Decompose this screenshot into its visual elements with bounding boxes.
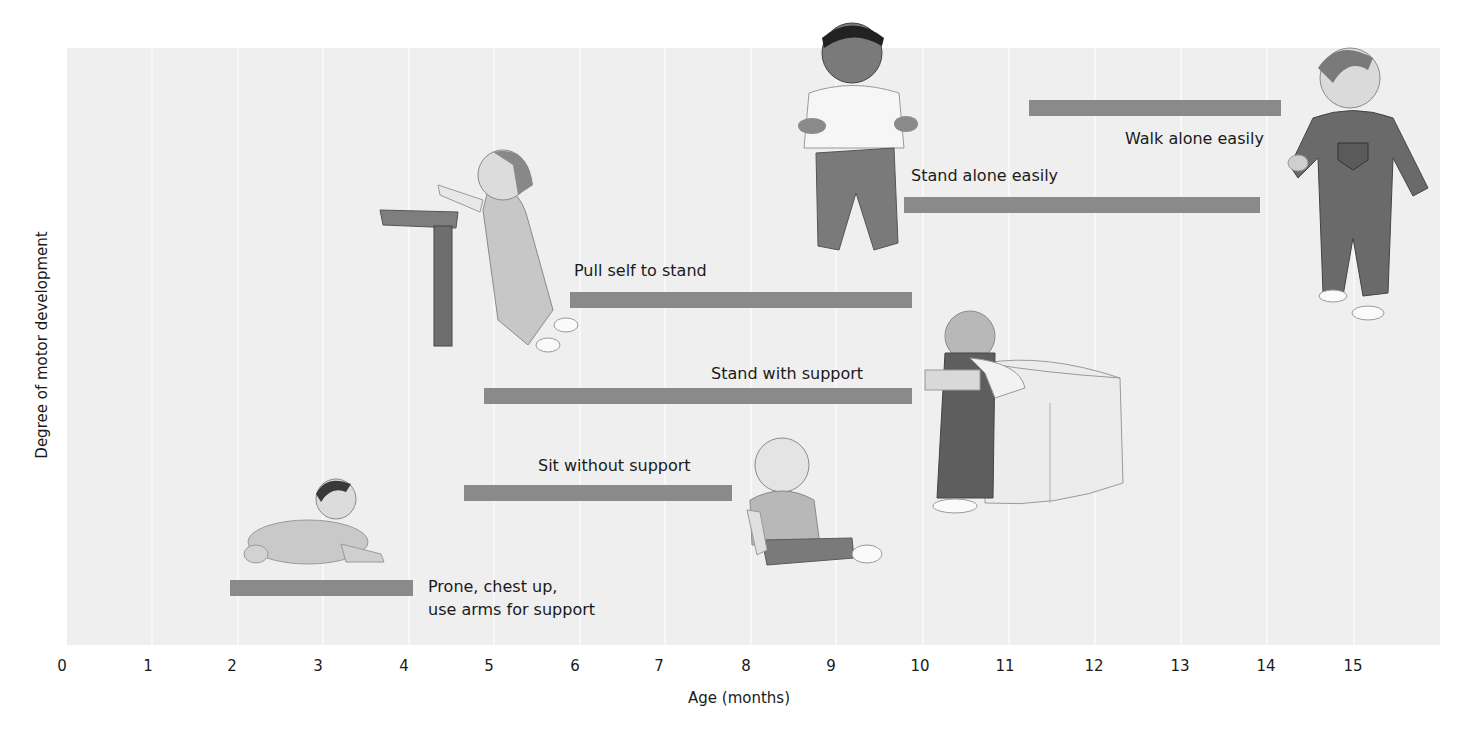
x-tick: 7 [654, 657, 664, 675]
x-tick: 6 [570, 657, 580, 675]
bar-walk-alone-easily [1029, 100, 1281, 116]
bar-stand-alone-easily [904, 197, 1260, 213]
x-tick: 11 [995, 657, 1014, 675]
x-axis-label: Age (months) [688, 689, 790, 707]
x-tick: 10 [910, 657, 929, 675]
stand-alone-illustration [794, 18, 929, 270]
bar-prone [230, 580, 413, 596]
bar-stand-with-support [484, 388, 912, 404]
bar-pull-self-to-stand [570, 292, 912, 308]
x-tick: 3 [313, 657, 323, 675]
pull-to-stand-illustration [378, 140, 588, 355]
label-pull-self-to-stand: Pull self to stand [574, 260, 707, 282]
label-stand-alone-easily: Stand alone easily [911, 165, 1058, 187]
x-tick: 2 [227, 657, 237, 675]
x-tick: 15 [1343, 657, 1362, 675]
y-axis-label: Degree of motor development [33, 231, 51, 458]
x-tick: 14 [1256, 657, 1275, 675]
x-tick: 8 [741, 657, 751, 675]
label-walk-alone-easily: Walk alone easily [1125, 128, 1264, 150]
gridline [664, 48, 666, 645]
walk-alone-illustration [1288, 38, 1438, 323]
x-tick: 4 [399, 657, 409, 675]
x-tick: 0 [57, 657, 67, 675]
stand-with-support-illustration [925, 298, 1130, 516]
label-stand-with-support: Stand with support [711, 363, 863, 385]
label-sit-without-support: Sit without support [538, 455, 691, 477]
x-tick: 12 [1084, 657, 1103, 675]
gridline [151, 48, 153, 645]
x-tick: 5 [484, 657, 494, 675]
x-tick: 9 [826, 657, 836, 675]
sitting-infant-illustration [742, 430, 887, 570]
label-prone-line1: Prone, chest up, [428, 576, 557, 598]
gridline [237, 48, 239, 645]
gridline [1266, 48, 1268, 645]
x-tick: 13 [1170, 657, 1189, 675]
label-prone-line2: use arms for support [428, 599, 595, 621]
x-tick: 1 [143, 657, 153, 675]
prone-infant-illustration [246, 474, 391, 574]
bar-sit-without-support [464, 485, 732, 501]
